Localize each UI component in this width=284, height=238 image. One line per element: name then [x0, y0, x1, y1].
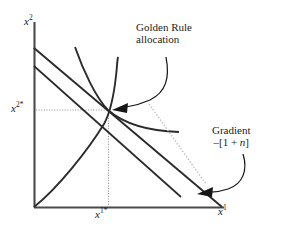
y-axis-label: x2: [24, 14, 33, 27]
gradient-annotation-line2: –[1 + n]: [212, 136, 250, 148]
y-axis-label-sup: 2: [29, 13, 33, 22]
budget-line-lower: [34, 66, 181, 197]
y-axis-tick-label-x2star: x2*: [11, 101, 23, 114]
x-tick-label-sup: 1*: [100, 206, 108, 215]
golden-rule-annotation: Golden Rule allocation: [136, 21, 192, 46]
golden-rule-arrow-head: [112, 103, 128, 113]
golden-rule-annotation-line2: allocation: [136, 33, 192, 45]
y-tick-label-sup: 2*: [16, 100, 24, 109]
guide-lines-group: [36, 110, 109, 206]
gradient-expr-prefix: –[1 +: [213, 136, 239, 148]
production-curve: [34, 57, 118, 207]
gradient-arrow-shaft: [211, 154, 245, 192]
budget-line-upper: [34, 48, 222, 207]
gradient-annotation: Gradient –[1 + n]: [212, 124, 250, 149]
budget-lines-group: [34, 48, 222, 207]
golden-rule-annotation-line1: Golden Rule: [136, 21, 192, 33]
gradient-dotted-tangent: [149, 104, 206, 184]
x-axis-tick-label-x1star: x1*: [95, 207, 107, 220]
golden-rule-arrow: [112, 57, 167, 113]
x-axis-label-sup: 1: [223, 203, 227, 212]
gradient-annotation-line1: Gradient: [212, 124, 250, 136]
indifference-curve: [75, 47, 179, 132]
gradient-expr-suffix: ]: [245, 136, 249, 148]
golden-rule-allocation-figure: x2 x2* x1 x1* Golden Rule allocation Gra…: [0, 0, 284, 238]
x-axis-label: x1: [218, 204, 227, 217]
golden-rule-arrow-shaft: [126, 57, 167, 107]
gradient-arrow: [197, 154, 245, 197]
